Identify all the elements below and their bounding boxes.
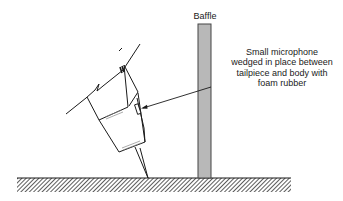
diagram-canvas <box>0 0 343 201</box>
callout-line: tailpiece and body with <box>222 68 342 78</box>
callout-line: foam rubber <box>222 78 342 88</box>
callout-line: Small microphone <box>222 47 342 57</box>
instrument-break-line <box>66 44 140 114</box>
microphone-callout: Small microphone wedged in place between… <box>222 47 342 88</box>
callout-line: wedged in place between <box>222 57 342 67</box>
floor <box>17 178 291 192</box>
baffle <box>198 24 211 178</box>
baffle-label: Baffle <box>190 11 220 21</box>
instrument <box>66 44 148 178</box>
endpin <box>135 147 148 178</box>
instrument-body-upper <box>87 65 128 120</box>
diagram: Baffle Small microphone wedged in place … <box>0 0 343 201</box>
